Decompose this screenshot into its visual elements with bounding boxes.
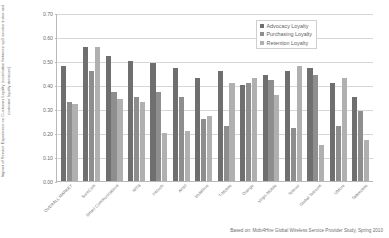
bar bbox=[358, 111, 363, 181]
bar bbox=[246, 83, 251, 181]
bar-group bbox=[80, 14, 102, 181]
x-axis-label: Vodafone bbox=[193, 183, 209, 199]
bar bbox=[218, 71, 223, 181]
bar bbox=[342, 78, 347, 181]
x-axis-label: Airtel bbox=[177, 183, 187, 193]
bar bbox=[117, 99, 122, 181]
bar bbox=[252, 78, 257, 181]
source-note: Based on: Mobi4Hire Global Wireless Serv… bbox=[230, 228, 383, 233]
bar bbox=[319, 145, 324, 181]
legend-item[interactable]: Advocacy Loyalty bbox=[260, 23, 312, 29]
bar bbox=[336, 126, 341, 181]
y-axis-title: Impact of Service Experience on Customer… bbox=[0, 0, 11, 182]
bar-groups bbox=[57, 14, 373, 181]
bar bbox=[140, 102, 145, 181]
bar bbox=[291, 128, 296, 181]
bar bbox=[364, 140, 369, 181]
bar bbox=[330, 83, 335, 181]
legend-label: Purchasing Loyalty bbox=[267, 31, 313, 37]
y-axis-tick-label: 0.40 bbox=[43, 83, 53, 89]
legend-swatch-icon bbox=[260, 32, 264, 36]
bar bbox=[106, 56, 111, 181]
x-axis-label: OVERALL MARKET bbox=[43, 183, 74, 214]
chart-container: Impact of Service Experience on Customer… bbox=[0, 0, 389, 238]
legend-item[interactable]: Retention Loyalty bbox=[260, 40, 312, 46]
y-axis-tick-label: 0.20 bbox=[43, 131, 53, 137]
bar bbox=[313, 75, 318, 181]
x-axis-label: UMore bbox=[333, 183, 346, 196]
bar bbox=[352, 97, 357, 181]
bar bbox=[67, 102, 72, 181]
bar bbox=[224, 126, 229, 181]
bar bbox=[185, 131, 190, 181]
bar-group bbox=[193, 14, 215, 181]
x-axis-label: Global Telecom bbox=[299, 183, 323, 207]
bar bbox=[263, 75, 268, 181]
bar bbox=[179, 97, 184, 181]
plot-area: 0.700.600.500.400.300.200.100.00 bbox=[56, 14, 373, 182]
bar bbox=[195, 78, 200, 181]
legend-label: Advocacy Loyalty bbox=[267, 23, 309, 29]
bar bbox=[83, 47, 88, 181]
bar-group bbox=[58, 14, 80, 181]
bar bbox=[268, 80, 273, 181]
y-axis-tick-label: 0.10 bbox=[43, 155, 53, 161]
x-axis-label: Virgin Mobile bbox=[257, 183, 278, 204]
bar bbox=[307, 68, 312, 181]
bar bbox=[128, 61, 133, 181]
legend-swatch-icon bbox=[260, 41, 264, 45]
chart-legend: Advocacy LoyaltyPurchasing LoyaltyRetent… bbox=[256, 20, 317, 49]
x-axis-label: Telenor bbox=[287, 183, 300, 196]
x-axis-label: T-Mobile bbox=[217, 183, 232, 198]
legend-item[interactable]: Purchasing Loyalty bbox=[260, 31, 312, 37]
bar bbox=[297, 66, 302, 181]
x-axis-label: Intouch bbox=[151, 183, 164, 196]
x-axis-label: MTN bbox=[132, 183, 142, 193]
bar bbox=[240, 85, 245, 181]
bar bbox=[95, 47, 100, 181]
bar-group bbox=[103, 14, 125, 181]
bar bbox=[111, 92, 116, 181]
x-axis-labels: OVERALL MARKETSureComSmart Communication… bbox=[56, 183, 373, 231]
bar bbox=[285, 71, 290, 181]
bar bbox=[173, 68, 178, 181]
y-axis-title-area: Impact of Service Experience on Customer… bbox=[0, 0, 32, 190]
bar bbox=[274, 95, 279, 181]
x-axis-label: Orange bbox=[241, 183, 255, 197]
bar bbox=[229, 83, 234, 181]
bar-group bbox=[148, 14, 170, 181]
y-axis-tick-label: 0.00 bbox=[43, 179, 53, 185]
legend-label: Retention Loyalty bbox=[267, 40, 309, 46]
bar bbox=[134, 97, 139, 181]
x-axis-label: SureCom bbox=[80, 183, 96, 199]
bar-group bbox=[215, 14, 237, 181]
legend-swatch-icon bbox=[260, 24, 264, 28]
bar bbox=[201, 119, 206, 181]
bar bbox=[162, 133, 167, 181]
bar bbox=[61, 66, 66, 181]
y-axis-tick-label: 0.60 bbox=[43, 35, 53, 41]
x-axis-label: Talkmobile bbox=[350, 183, 368, 201]
bar bbox=[89, 71, 94, 181]
bar bbox=[150, 63, 155, 181]
bar-group bbox=[349, 14, 371, 181]
bar bbox=[72, 104, 77, 181]
y-axis-tick-label: 0.70 bbox=[43, 11, 53, 17]
bar-group bbox=[170, 14, 192, 181]
bar-group bbox=[327, 14, 349, 181]
y-axis-tick-label: 0.50 bbox=[43, 59, 53, 65]
bar bbox=[207, 116, 212, 181]
y-axis-tick-label: 0.30 bbox=[43, 107, 53, 113]
bar bbox=[156, 92, 161, 181]
bar-group bbox=[125, 14, 147, 181]
